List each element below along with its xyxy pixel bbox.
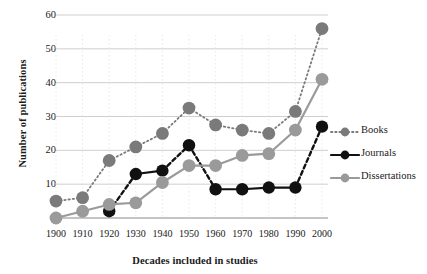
data-point-marker xyxy=(263,181,275,193)
data-point-marker xyxy=(236,124,249,137)
series-segment xyxy=(295,29,322,112)
chart-legend: BooksJournalsDissertations xyxy=(330,118,426,187)
data-point-marker xyxy=(316,120,328,132)
data-point-marker xyxy=(156,127,169,140)
x-tick-label: 2000 xyxy=(302,228,342,239)
data-point-marker xyxy=(209,119,222,132)
legend-label: Journals xyxy=(360,147,396,159)
data-point-marker xyxy=(103,198,116,211)
data-point-marker xyxy=(183,159,196,172)
data-point-marker xyxy=(156,176,169,189)
publications-line-chart: Number of publications 0102030405060 190… xyxy=(0,0,427,274)
data-point-marker xyxy=(262,127,275,140)
data-point-marker xyxy=(129,196,142,209)
data-point-marker xyxy=(289,124,302,137)
data-point-marker xyxy=(76,191,89,204)
x-axis-title: Decades included in studies xyxy=(52,255,338,266)
data-point-marker xyxy=(156,164,168,176)
series-segment xyxy=(295,127,322,188)
data-point-marker xyxy=(236,149,249,162)
x-axis-tick-labels: 1900191019201930194019501960197019801990… xyxy=(0,228,427,244)
data-point-marker xyxy=(209,159,222,172)
legend-item-journals[interactable]: Journals xyxy=(330,141,426,164)
series-segment xyxy=(83,160,110,197)
data-point-marker xyxy=(50,212,63,225)
legend-item-dissertations[interactable]: Dissertations xyxy=(330,164,426,187)
data-point-marker xyxy=(183,139,195,151)
legend-item-books[interactable]: Books xyxy=(330,118,426,141)
legend-label: Books xyxy=(360,124,388,136)
data-point-marker xyxy=(130,168,142,180)
data-point-marker xyxy=(209,183,221,195)
dotted-line-marker-icon xyxy=(330,124,360,136)
legend-label: Dissertations xyxy=(360,170,416,182)
solid-line-marker-icon xyxy=(330,147,360,159)
data-point-marker xyxy=(129,141,142,154)
data-point-marker xyxy=(50,195,63,208)
data-point-marker xyxy=(262,147,275,160)
data-point-marker xyxy=(289,105,302,118)
data-point-marker xyxy=(316,73,329,86)
data-point-marker xyxy=(316,22,329,35)
data-point-marker xyxy=(103,154,116,167)
data-point-marker xyxy=(289,181,301,193)
solid-line-marker-icon xyxy=(330,170,360,182)
data-point-marker xyxy=(76,205,89,218)
data-point-marker xyxy=(183,102,196,115)
data-point-marker xyxy=(236,183,248,195)
